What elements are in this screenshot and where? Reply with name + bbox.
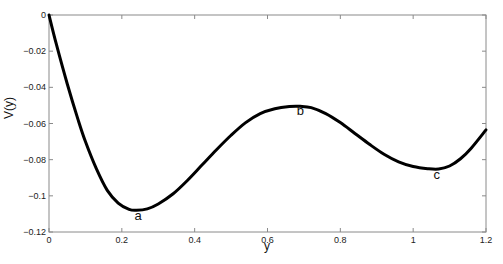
- x-tick-label: 0: [46, 235, 51, 245]
- series-layer: [49, 15, 486, 210]
- annotation-c: c: [434, 167, 441, 182]
- y-axis-label: V(y): [2, 97, 16, 119]
- y-tick-label: −0.04: [23, 82, 46, 92]
- y-axis-ticks: 0−0.02−0.04−0.06−0.08−0.1−0.12: [23, 10, 486, 237]
- y-tick-label: −0.12: [23, 227, 46, 237]
- y-tick-label: −0.08: [23, 155, 46, 165]
- x-axis-label: y: [264, 239, 270, 253]
- x-tick-label: 0.8: [334, 235, 347, 245]
- x-tick-label: 1: [411, 235, 416, 245]
- x-tick-label: 1.2: [480, 235, 493, 245]
- x-axis-ticks: 00.20.40.60.811.2: [46, 15, 492, 245]
- y-tick-label: −0.1: [28, 191, 46, 201]
- y-tick-label: 0: [41, 10, 46, 20]
- y-tick-label: −0.02: [23, 46, 46, 56]
- x-tick-label: 0.4: [188, 235, 201, 245]
- x-tick-label: 0.2: [116, 235, 129, 245]
- annotations: abc: [135, 103, 441, 223]
- series-line: [49, 15, 486, 210]
- annotation-a: a: [135, 208, 143, 223]
- y-tick-label: −0.06: [23, 119, 46, 129]
- annotation-b: b: [297, 103, 304, 118]
- chart: 00.20.40.60.811.2 0−0.02−0.04−0.06−0.08−…: [0, 0, 503, 264]
